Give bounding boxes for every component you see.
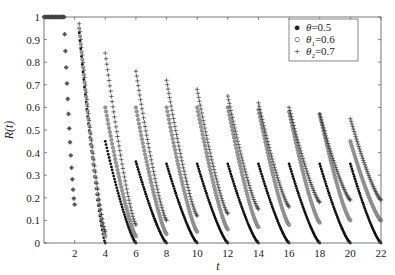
y-tick-label: 1 — [35, 11, 41, 23]
y-tick-label: 0.2 — [26, 192, 40, 204]
y-tick-label: 0.7 — [26, 79, 40, 91]
y-tick-label: 0.9 — [26, 34, 40, 46]
y-tick-label: 0.6 — [26, 101, 40, 113]
x-tick-label: 10 — [192, 247, 204, 259]
y-axis-label: R(t) — [2, 121, 16, 141]
legend-marker-icon: ○ — [294, 33, 301, 45]
legend-marker-icon: + — [294, 45, 300, 57]
y-tick-label: 0.5 — [26, 124, 40, 136]
x-tick-label: 6 — [133, 247, 139, 259]
x-tick-label: 2 — [72, 247, 78, 259]
x-axis-label: t — [216, 259, 220, 273]
legend-marker-icon: ● — [294, 21, 301, 33]
legend: ●θ=0.5○θ1=0.6+θ2=0.7 — [289, 19, 358, 61]
y-tick-label: 0 — [35, 237, 41, 249]
y-tick-label: 0.4 — [26, 147, 40, 159]
y-tick-label: 0.8 — [26, 56, 40, 68]
x-tick-label: 16 — [284, 247, 296, 259]
y-tick-label: 0.1 — [26, 214, 40, 226]
x-tick-label: 4 — [103, 247, 109, 259]
x-tick-label: 20 — [345, 247, 357, 259]
x-tick-label: 12 — [222, 247, 233, 259]
reliability-chart: 246810121416182022 00.10.20.30.40.50.60.… — [0, 0, 395, 275]
legend-label: θ=0.5 — [306, 21, 332, 33]
x-tick-label: 22 — [376, 247, 387, 259]
legend-item: ●θ=0.5 — [294, 21, 332, 33]
x-tick-label: 14 — [253, 247, 265, 259]
x-tick-label: 8 — [164, 247, 170, 259]
x-tick-label: 18 — [314, 247, 326, 259]
y-tick-label: 0.3 — [26, 169, 40, 181]
